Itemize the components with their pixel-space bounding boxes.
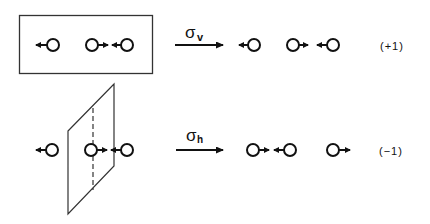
molecule-after-sigma-h — [247, 144, 350, 156]
atom-with-right-arrow — [327, 144, 350, 156]
atom-with-left-arrow — [317, 39, 339, 51]
molecule-before-sigma-h-center — [85, 144, 133, 156]
atom-with-right-arrow — [86, 39, 108, 51]
atom-with-left-arrow — [239, 39, 260, 51]
molecule-before-sigma-v — [36, 39, 133, 51]
operation-arrow-sigma-v: σ v — [175, 23, 223, 45]
atom-with-left-arrow — [36, 39, 59, 51]
symmetry-diagram: σ v (+1) — [0, 0, 430, 224]
molecule-before-sigma-h — [36, 144, 58, 156]
atom-with-right-arrow — [287, 39, 308, 51]
atom-with-left-arrow — [112, 39, 133, 51]
molecule-after-sigma-v — [239, 39, 339, 51]
atom-with-left-arrow — [274, 144, 296, 156]
character-plus-one: (+1) — [380, 40, 404, 52]
sigma-symbol: σ — [186, 126, 197, 145]
atom-with-right-arrow — [85, 144, 107, 156]
character-minus-one: (−1) — [379, 145, 403, 157]
row-sigma-v: σ v (+1) — [20, 16, 404, 74]
operation-arrow-sigma-h: σ h — [176, 126, 223, 150]
row-sigma-h: σ h (−1) — [36, 84, 403, 214]
sigma-subscript: v — [197, 31, 204, 43]
sigma-symbol: σ — [185, 23, 196, 42]
atom-with-left-arrow — [36, 144, 58, 156]
atom-with-right-arrow — [247, 144, 269, 156]
sigma-subscript: h — [197, 134, 203, 145]
